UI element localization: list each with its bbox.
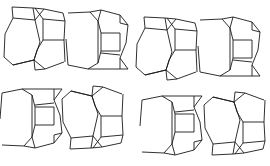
cage-edge (196, 50, 197, 72)
cage-edge (34, 40, 43, 60)
cage-box (212, 142, 235, 155)
cage-box (70, 136, 93, 149)
cage-box (144, 17, 167, 30)
square-ring (35, 107, 54, 125)
hexagon-cage (0, 89, 32, 146)
cage-edge (92, 96, 101, 116)
cage-bottom (213, 92, 264, 102)
framework-diagram (0, 0, 270, 166)
cage-link (166, 70, 177, 79)
upper-chain (4, 7, 260, 80)
cage-link (32, 137, 35, 148)
cage-link (92, 87, 103, 96)
cage-triangle (54, 89, 62, 100)
cage-bottom (13, 60, 64, 70)
cage-link (172, 144, 175, 155)
cage-triangle (194, 96, 202, 107)
cage-link (34, 60, 45, 69)
cage-edge (234, 102, 243, 122)
cage-link (35, 8, 43, 19)
cage-edge (233, 60, 252, 62)
hexagon-cage (140, 96, 172, 153)
square-ring (233, 40, 252, 58)
cage-link (235, 143, 243, 154)
cage-link (98, 10, 101, 21)
cage-edge (122, 94, 123, 116)
square-ring (175, 29, 197, 50)
hexagon-cage (66, 12, 98, 69)
lower-chain (0, 86, 265, 155)
cage-bottom (71, 86, 122, 96)
square-ring (101, 33, 120, 51)
cage-edge (35, 103, 54, 105)
cage-link (234, 93, 245, 102)
square-ring (243, 122, 265, 143)
cage-link (93, 137, 101, 148)
cage-bottom (145, 70, 196, 80)
cage-edge (64, 40, 65, 62)
square-ring (175, 114, 194, 132)
cage-link (167, 18, 175, 29)
cage-edge (175, 110, 194, 112)
cage-edge (264, 100, 265, 122)
hexagon-cage (198, 19, 230, 76)
cage-link (230, 17, 233, 28)
cage-edge (166, 50, 175, 70)
square-ring (43, 19, 65, 40)
cage-edge (101, 53, 120, 55)
cage-box (12, 7, 35, 20)
cage-triangle (120, 58, 128, 69)
cage-triangle (252, 65, 260, 76)
square-ring (101, 116, 123, 137)
